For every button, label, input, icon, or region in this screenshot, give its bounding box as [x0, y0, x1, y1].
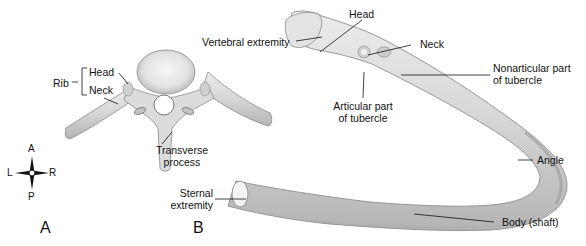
compass-right: R — [49, 167, 56, 178]
label-sternal-extremity: Sternal extremity — [165, 187, 213, 211]
compass-posterior: P — [28, 191, 35, 202]
label-rib-neck: Neck — [89, 84, 113, 96]
label-sternal-line2: extremity — [165, 199, 213, 211]
label-transverse-process-line1: Transverse — [154, 144, 210, 156]
label-articular-part: Articular part of tubercle — [322, 100, 404, 124]
label-body-shaft: Body (shaft) — [502, 216, 559, 228]
compass-anterior: A — [28, 143, 35, 154]
label-rib-head: Head — [89, 66, 114, 78]
label-vertebral-extremity: Vertebral extremity — [202, 36, 290, 48]
figure-caption-cutoff — [4, 239, 584, 246]
label-transverse-process-line2: process — [154, 156, 210, 168]
label-articular-line2: of tubercle — [322, 112, 404, 124]
panel-letter-b: B — [193, 219, 204, 237]
label-sternal-line1: Sternal — [165, 187, 213, 199]
label-nonarticular-line2: of tubercle — [493, 74, 571, 86]
label-nonarticular-line1: Nonarticular part — [493, 62, 571, 74]
label-articular-line1: Articular part — [322, 100, 404, 112]
label-angle: Angle — [537, 154, 564, 166]
label-rib: Rib — [53, 77, 69, 89]
label-transverse-process: Transverse process — [154, 144, 210, 168]
label-head: Head — [349, 8, 374, 20]
label-nonarticular-part: Nonarticular part of tubercle — [493, 62, 571, 86]
rib-anatomy-figure — [0, 0, 586, 246]
compass-left: L — [7, 167, 13, 178]
label-neck: Neck — [420, 38, 444, 50]
panel-letter-a: A — [40, 219, 51, 237]
orientation-compass — [15, 156, 49, 190]
